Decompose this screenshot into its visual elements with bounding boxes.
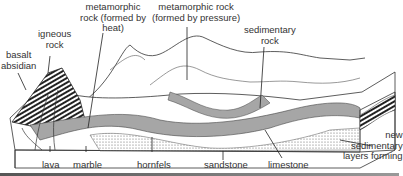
label-line: layers forming	[343, 151, 403, 162]
label-metamorphic-heat: metamorphic rock (formed by heat)	[80, 2, 146, 34]
label-line: (formed by pressure)	[152, 13, 240, 24]
label-line: sedimentary	[244, 25, 296, 36]
label-limestone: limestone	[268, 160, 309, 171]
label-sandstone: sandstone	[204, 160, 248, 171]
label-line: basalt	[1, 50, 36, 61]
label-line: new	[343, 130, 403, 141]
label-sedimentary: sedimentary rock	[244, 25, 296, 46]
label-line: igneous	[38, 29, 71, 40]
label-metamorphic-pressure: metamorphic rock (formed by pressure)	[152, 2, 240, 23]
label-igneous: igneous rock	[38, 29, 71, 50]
label-line: heat)	[80, 23, 146, 34]
label-line: rock	[38, 40, 71, 51]
label-line: metamorphic	[80, 2, 146, 13]
label-line: absidian	[1, 61, 36, 72]
label-basalt: basalt absidian	[1, 50, 36, 71]
bottom-rule	[0, 173, 399, 176]
label-line: rock	[244, 36, 296, 47]
label-lava: lava	[42, 160, 59, 171]
label-hornfels: hornfels	[137, 160, 171, 171]
label-new-layers: new sedimentary layers forming	[343, 130, 403, 162]
label-line: metamorphic rock	[152, 2, 240, 13]
label-marble: marble	[73, 160, 102, 171]
